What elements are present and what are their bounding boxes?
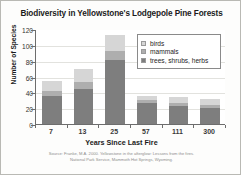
chart-legend: birdsmammalstrees, shrubs, herbs (137, 34, 221, 69)
gridline (36, 93, 225, 94)
x-tick-mark (162, 125, 163, 128)
bar-segment (105, 51, 125, 60)
bar-group (200, 99, 220, 124)
bar-group (42, 81, 62, 124)
legend-label: mammals (150, 48, 179, 55)
bar-segment (105, 60, 125, 124)
bar-segment (169, 106, 189, 124)
x-tick-mark (98, 125, 99, 128)
bar-group (105, 35, 125, 124)
y-tick-label: 80 (7, 58, 33, 65)
bar-segment (42, 81, 62, 91)
y-tick-label: 100 (7, 42, 33, 49)
x-tick-label: 300 (189, 128, 229, 135)
bar-segment (105, 35, 125, 51)
legend-swatch-icon (141, 58, 146, 63)
x-tick-mark (35, 125, 36, 128)
y-axis-labels: 020406080100120 (1, 30, 33, 125)
bar-segment (74, 89, 94, 124)
x-tick-mark (193, 125, 194, 128)
bar-segment (137, 103, 157, 124)
y-tick-mark (31, 30, 35, 31)
legend-label: birds (150, 40, 164, 47)
x-tick-mark (130, 125, 131, 128)
legend-item[interactable]: mammals (141, 48, 216, 55)
bar-group (74, 69, 94, 124)
legend-swatch-icon (141, 41, 146, 46)
y-tick-mark (31, 109, 35, 110)
x-tick-mark (225, 125, 226, 128)
legend-swatch-icon (141, 49, 146, 54)
legend-item[interactable]: trees, shrubs, herbs (141, 57, 216, 64)
x-tick-mark (67, 125, 68, 128)
y-tick-label: 120 (7, 27, 33, 34)
y-tick-mark (31, 78, 35, 79)
bar-group (169, 97, 189, 124)
legend-item[interactable]: birds (141, 40, 216, 47)
source-line-2: National Park Service, Mammoth Hot Sprin… (1, 157, 241, 163)
bar-segment (42, 96, 62, 124)
y-tick-label: 20 (7, 106, 33, 113)
bar-segment (200, 108, 220, 124)
bar-segment (74, 82, 94, 89)
legend-label: trees, shrubs, herbs (150, 57, 208, 64)
y-tick-mark (31, 62, 35, 63)
y-tick-label: 0 (7, 122, 33, 129)
y-tick-label: 40 (7, 90, 33, 97)
chart-figure: Biodiversity in Yellowstone's Lodgepole … (0, 0, 241, 175)
source-note: Source: Franke, M.A. 2000. Yellowstone i… (1, 151, 241, 163)
bar-group (137, 96, 157, 124)
bar-segment (74, 69, 94, 82)
y-tick-label: 60 (7, 74, 33, 81)
gridline (36, 109, 225, 110)
chart-title: Biodiversity in Yellowstone's Lodgepole … (1, 9, 241, 18)
y-tick-mark (31, 93, 35, 94)
x-axis-title: Years Since Last Fire (1, 138, 241, 147)
y-tick-mark (31, 46, 35, 47)
gridline (36, 78, 225, 79)
